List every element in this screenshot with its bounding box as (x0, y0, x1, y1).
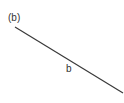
panel-label: (b) (8, 12, 20, 23)
diagram-svg: (b) b (0, 0, 124, 103)
segment-label: b (66, 63, 72, 74)
diagram-canvas: (b) b (0, 0, 124, 103)
segment-line (15, 27, 123, 93)
